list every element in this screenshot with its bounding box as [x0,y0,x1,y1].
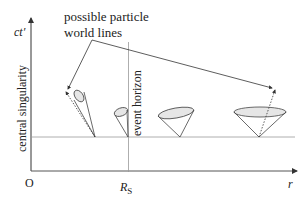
light-cone-2 [113,106,129,137]
light-cone-3 [157,105,194,137]
light-cone-1 [66,88,95,137]
x-axis-label: r [288,177,293,191]
light-cone-diagram: possible particle world lines ct′ centra… [0,0,305,199]
annotation-text-line2: world lines [64,25,122,40]
singularity-label: central singularity [15,65,29,152]
rs-label: RS [119,180,132,196]
annotation-text-line1: possible particle [64,9,149,24]
annotation-pointer-right [92,40,272,88]
origin-label: O [25,176,34,190]
event-horizon-label: event horizon [130,70,144,136]
light-cone-4 [234,90,286,137]
y-axis-label: ct′ [14,25,26,39]
annotation-pointer-left [68,40,92,89]
rs-label-sub: S [127,186,132,196]
